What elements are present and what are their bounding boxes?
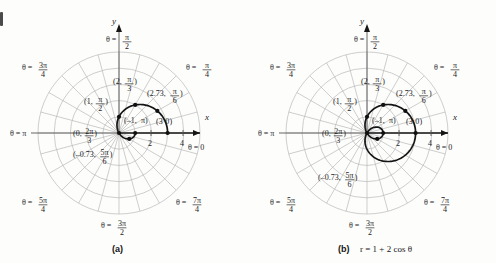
angle-label-45deg: θ = π4 xyxy=(434,61,459,79)
svg-text:θ =: θ = xyxy=(349,221,360,230)
svg-text:(0,: (0, xyxy=(322,129,331,138)
svg-text:θ =: θ = xyxy=(106,35,117,44)
grid-ray-210deg xyxy=(297,133,367,174)
svg-text:4: 4 xyxy=(289,70,293,79)
svg-text:6: 6 xyxy=(348,180,352,189)
svg-text:6: 6 xyxy=(173,96,177,105)
svg-text:7π: 7π xyxy=(441,196,449,205)
svg-text:): ) xyxy=(429,89,432,98)
svg-text:): ) xyxy=(145,116,148,125)
svg-text:π: π xyxy=(375,75,379,84)
svg-text:): ) xyxy=(94,129,97,138)
angle-fraction-90: π2 xyxy=(123,33,132,51)
svg-text:): ) xyxy=(343,129,346,138)
svg-text:6: 6 xyxy=(422,96,426,105)
svg-text:4: 4 xyxy=(453,70,457,79)
svg-text:): ) xyxy=(110,150,113,159)
angle-label-135deg: θ = 3π4 xyxy=(22,61,47,79)
svg-text:θ =: θ = xyxy=(176,198,187,207)
angle-fraction-45: π4 xyxy=(451,61,460,79)
svg-text:π: π xyxy=(205,61,209,70)
svg-text:5π: 5π xyxy=(39,196,47,205)
point-label-4: (0,2π3) xyxy=(322,127,346,145)
svg-text:): ) xyxy=(419,117,422,126)
svg-text:π: π xyxy=(453,61,457,70)
point-label-5: (–0.73,5π6) xyxy=(318,171,358,189)
point-label-6: (–1, π) xyxy=(372,116,396,125)
angle-fraction-315: 7π4 xyxy=(441,196,450,214)
svg-text:θ = 0: θ = 0 xyxy=(188,143,204,152)
svg-text:): ) xyxy=(393,116,396,125)
caption-b-label: (b) xyxy=(338,244,350,254)
svg-text:4: 4 xyxy=(41,205,45,214)
svg-text:π: π xyxy=(347,95,351,104)
svg-text:(1,: (1, xyxy=(84,97,93,106)
svg-text:): ) xyxy=(354,97,357,106)
angle-label-0deg: θ = 0 xyxy=(188,143,204,152)
grid-ray-300deg xyxy=(367,133,408,203)
angle-label-315deg: θ = 7π4 xyxy=(424,196,449,214)
point-label-2: (2,π3) xyxy=(361,75,385,93)
tick-label-2: 2 xyxy=(396,139,400,148)
svg-text:π: π xyxy=(98,95,102,104)
svg-text:θ =: θ = xyxy=(424,198,435,207)
svg-text:θ =: θ = xyxy=(354,35,365,44)
svg-text:π: π xyxy=(125,33,129,42)
svg-text:(–0.73,: (–0.73, xyxy=(318,173,341,182)
caption-b-equation: r = 1 + 2 cos θ xyxy=(360,244,412,254)
angle-label-270deg: θ = 3π2 xyxy=(349,219,374,237)
grid-ray-285deg xyxy=(367,133,388,211)
svg-text:2: 2 xyxy=(347,104,351,113)
svg-text:π: π xyxy=(173,87,177,96)
svg-text:3π: 3π xyxy=(118,219,126,228)
data-point-2 xyxy=(133,103,137,107)
svg-text:θ =: θ = xyxy=(434,63,445,72)
angle-label-135deg: θ = 3π4 xyxy=(270,61,295,79)
panel-a: 2 4 x y θ = 0θ = π4θ = π2θ = 3π4θ = πθ =… xyxy=(0,0,248,263)
polar-graph-figure: 2 4 x y θ = 0θ = π4θ = π2θ = 3π4θ = πθ =… xyxy=(0,0,496,263)
angle-fraction-90: π2 xyxy=(371,33,380,51)
svg-text:2: 2 xyxy=(120,228,124,237)
svg-text:4: 4 xyxy=(195,205,199,214)
svg-text:): ) xyxy=(134,77,137,86)
point-theta-fraction-4: 2π3 xyxy=(85,127,94,145)
panel-a-plot: 2 4 x y θ = 0θ = π4θ = π2θ = 3π4θ = πθ =… xyxy=(0,0,248,263)
svg-text:π: π xyxy=(422,87,426,96)
point-label-1: (2.73,π6) xyxy=(396,87,432,105)
svg-text:θ =: θ = xyxy=(270,63,281,72)
angle-fraction-135: 3π4 xyxy=(39,61,48,79)
svg-text:5π: 5π xyxy=(346,171,354,180)
grid-ray-240deg xyxy=(79,133,120,203)
svg-text:(0,: (0, xyxy=(73,129,82,138)
point-theta-fraction-3: π2 xyxy=(96,95,105,113)
angle-label-270deg: θ = 3π2 xyxy=(101,219,126,237)
svg-text:3: 3 xyxy=(87,136,91,145)
data-point-5 xyxy=(127,137,131,141)
grid-ray-300deg xyxy=(119,133,160,203)
svg-text:2π: 2π xyxy=(334,127,342,136)
angle-label-180deg: θ = π xyxy=(10,129,26,138)
svg-text:2: 2 xyxy=(125,42,129,51)
data-point-0 xyxy=(414,131,418,135)
svg-text:(2.73,: (2.73, xyxy=(147,89,166,98)
angle-label-0deg: θ = 0 xyxy=(436,143,452,152)
svg-text:2: 2 xyxy=(373,42,377,51)
data-point-0 xyxy=(166,131,170,135)
svg-text:θ =: θ = xyxy=(22,198,33,207)
point-theta-fraction-2: π3 xyxy=(373,75,382,93)
angle-fraction-270: 3π2 xyxy=(366,219,375,237)
svg-text:7π: 7π xyxy=(193,196,201,205)
svg-text:(2.73,: (2.73, xyxy=(396,89,415,98)
angle-label-225deg: θ = 5π4 xyxy=(270,196,295,214)
point-label-1: (2.73,π6) xyxy=(147,87,183,105)
point-theta-fraction-4: 2π3 xyxy=(334,127,343,145)
svg-text:): ) xyxy=(355,173,358,182)
svg-text:3π: 3π xyxy=(287,61,295,70)
svg-text:(–1,: (–1, xyxy=(372,116,385,125)
angle-label-225deg: θ = 5π4 xyxy=(22,196,47,214)
svg-text:5π: 5π xyxy=(287,196,295,205)
svg-text:2π: 2π xyxy=(85,127,93,136)
svg-text:θ =: θ = xyxy=(270,198,281,207)
x-axis-label: x xyxy=(204,112,209,122)
svg-text:π: π xyxy=(127,75,131,84)
